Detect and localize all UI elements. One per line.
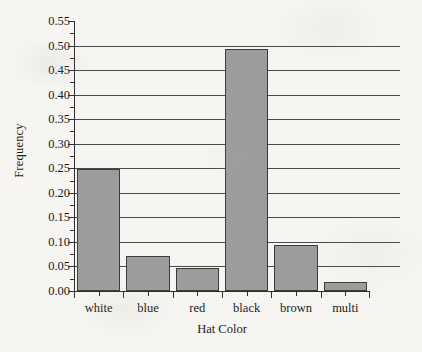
x-axis-title: Hat Color — [74, 322, 370, 337]
y-axis-tick-mark — [68, 95, 74, 96]
y-axis-tick-mark — [68, 217, 74, 218]
y-axis-tick-mark — [68, 193, 74, 194]
bar-red — [176, 268, 219, 291]
y-axis-tick-mark — [68, 266, 74, 267]
x-axis-minor-tick-mark — [247, 291, 248, 296]
x-axis-minor-tick-mark — [197, 291, 198, 296]
y-axis-minor-tick-mark — [70, 230, 74, 231]
x-axis-tick-label-red: red — [189, 302, 205, 315]
y-axis-tick-label: 0.30 — [26, 137, 70, 150]
x-axis-minor-tick-mark — [148, 291, 149, 296]
y-axis-minor-tick-mark — [70, 58, 74, 59]
y-axis-tick-labels: 0.000.050.100.150.200.250.300.350.400.45… — [22, 0, 70, 352]
x-axis-tick-mark — [222, 291, 223, 298]
x-axis-tick-label-blue: blue — [137, 302, 159, 315]
x-axis-minor-tick-mark — [296, 291, 297, 296]
x-axis-tick-mark — [123, 291, 124, 298]
y-axis-tick-mark — [68, 242, 74, 243]
x-axis-tick-mark — [369, 291, 370, 298]
y-axis-tick-label: 0.20 — [26, 187, 70, 200]
x-axis-tick-label-brown: brown — [280, 302, 312, 315]
plot-area — [74, 21, 400, 291]
y-axis-tick-marks — [74, 21, 75, 291]
y-axis-tick-label: 0.15 — [26, 211, 70, 224]
y-axis-minor-tick-mark — [70, 33, 74, 34]
x-axis-minor-tick-mark — [345, 291, 346, 296]
y-axis-tick-mark — [68, 144, 74, 145]
y-axis-tick-mark — [68, 70, 74, 71]
bar-black — [225, 49, 268, 292]
bar-chart-figure: Frequency 0.000.050.100.150.200.250.300.… — [0, 0, 422, 352]
y-axis-tick-label: 0.25 — [26, 162, 70, 175]
y-axis-minor-tick-mark — [70, 131, 74, 132]
x-axis-tick-mark — [271, 291, 272, 298]
x-axis-tick-mark — [74, 291, 75, 298]
x-axis-tick-label-multi: multi — [332, 302, 358, 315]
y-axis-tick-label: 0.35 — [26, 113, 70, 126]
bar-blue — [126, 256, 169, 291]
y-axis-tick-label: 0.10 — [26, 236, 70, 249]
y-axis-minor-tick-mark — [70, 205, 74, 206]
y-axis-tick-label: 0.45 — [26, 64, 70, 77]
y-axis-tick-label: 0.55 — [26, 15, 70, 28]
y-axis-tick-label: 0.05 — [26, 260, 70, 273]
y-axis-tick-label: 0.40 — [26, 88, 70, 101]
bars-group — [74, 21, 370, 291]
y-axis-tick-mark — [68, 119, 74, 120]
y-axis-minor-tick-mark — [70, 279, 74, 280]
x-axis-minor-tick-mark — [99, 291, 100, 296]
x-axis-tick-mark — [173, 291, 174, 298]
y-axis-minor-tick-mark — [70, 107, 74, 108]
y-axis-minor-tick-mark — [70, 82, 74, 83]
y-axis-tick-mark — [68, 168, 74, 169]
y-axis-tick-mark — [68, 21, 74, 22]
bar-multi — [324, 282, 367, 291]
x-axis-tick-mark — [321, 291, 322, 298]
y-axis-minor-tick-mark — [70, 156, 74, 157]
x-axis-tick-marks — [74, 291, 370, 299]
bar-white — [77, 169, 120, 291]
bar-brown — [274, 245, 317, 291]
y-axis-tick-label: 0.50 — [26, 39, 70, 52]
y-axis-tick-label: 0.00 — [26, 285, 70, 298]
y-axis-minor-tick-mark — [70, 254, 74, 255]
x-axis-tick-label-black: black — [233, 302, 260, 315]
y-axis-minor-tick-mark — [70, 181, 74, 182]
y-axis-tick-mark — [68, 46, 74, 47]
x-axis-tick-labels: whiteblueredblackbrownmulti — [74, 302, 370, 320]
x-axis-tick-label-white: white — [85, 302, 113, 315]
